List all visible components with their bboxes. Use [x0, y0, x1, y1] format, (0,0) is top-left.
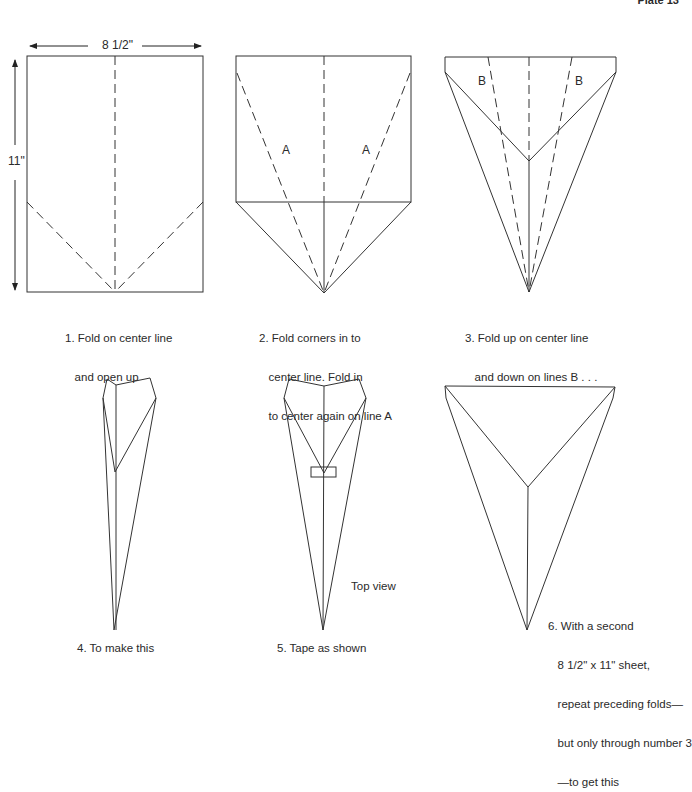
step-4-caption: 4. To make this — [77, 642, 154, 655]
caption-line: —to get this — [548, 776, 692, 789]
top-view-note: Top view — [351, 580, 396, 593]
caption-line: 8 1/2" x 11" sheet, — [548, 659, 692, 672]
step-2-sheet — [236, 56, 411, 293]
caption-line: and open up — [65, 371, 172, 384]
fold-line-a-right: A — [362, 143, 370, 157]
step-3-caption: 3. Fold up on center line and down on li… — [465, 306, 597, 397]
caption-line: 6. With a second — [548, 620, 692, 633]
step-1-caption: 1. Fold on center line and open up — [65, 306, 172, 397]
step-1-sheet — [15, 46, 203, 292]
fold-line-a-left: A — [282, 143, 290, 157]
caption-line: and down on lines B . . . — [465, 371, 597, 384]
height-dimension-label: 11" — [8, 152, 25, 170]
fold-line-b-right: B — [575, 74, 583, 88]
step-5-caption: 5. Tape as shown — [277, 642, 366, 655]
width-dimension-label: 8 1/2" — [100, 38, 135, 52]
step-2-caption: 2. Fold corners in to center line. Fold … — [259, 306, 392, 436]
caption-line: 1. Fold on center line — [65, 332, 172, 345]
caption-line: but only through number 3 — [548, 737, 692, 750]
step-4-plane — [103, 378, 156, 630]
caption-line: repeat preceding folds— — [548, 698, 692, 711]
caption-line: center line. Fold in — [259, 371, 392, 384]
caption-line: 2. Fold corners in to — [259, 332, 392, 345]
fold-line-b-left: B — [478, 74, 486, 88]
caption-line: 3. Fold up on center line — [465, 332, 597, 345]
caption-line: to center again on line A — [259, 410, 392, 423]
step-3-sheet — [445, 57, 616, 292]
step-6-caption: 6. With a second 8 1/2" x 11" sheet, rep… — [548, 594, 692, 792]
